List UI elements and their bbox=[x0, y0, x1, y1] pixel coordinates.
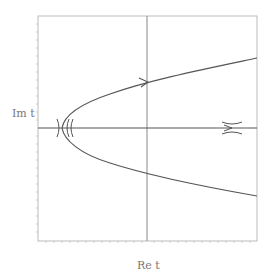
parabolic-contour bbox=[62, 58, 257, 196]
im-axis-label: Im t bbox=[12, 107, 35, 120]
re-axis-label: Re t bbox=[137, 259, 160, 272]
contour-diagram: Im t Re t bbox=[0, 0, 270, 278]
